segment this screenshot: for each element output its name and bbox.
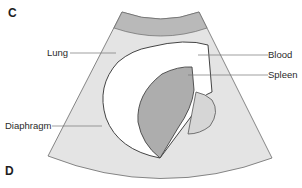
label-spleen: Spleen [268,70,298,80]
panel-label-d: D [5,165,14,177]
ultrasound-diagram: C Lung Blood Spleen Diaphragm D [0,0,302,188]
label-lung: Lung [47,48,68,58]
near-field-band [114,12,207,36]
panel-label-c: C [8,7,17,19]
sector-diagram [0,0,302,188]
label-blood: Blood [268,50,292,60]
label-diaphragm: Diaphragm [5,121,51,131]
